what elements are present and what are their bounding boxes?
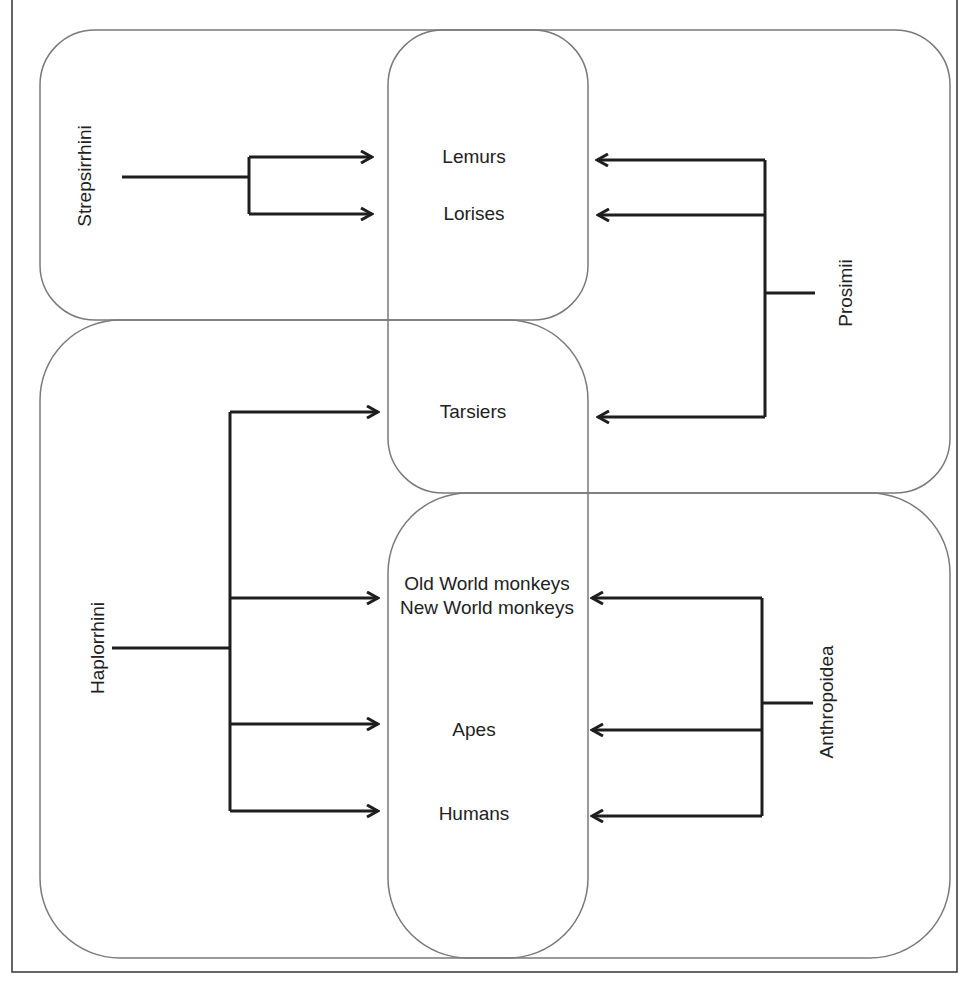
- taxon-new-world-monkeys: New World monkeys: [400, 597, 574, 618]
- prosimii-tree: [597, 160, 815, 417]
- taxon-lorises: Lorises: [443, 203, 504, 224]
- taxon-old-world-monkeys: Old World monkeys: [404, 573, 569, 594]
- label-haplorrhini: Haplorrhini: [87, 602, 108, 694]
- taxon-lemurs: Lemurs: [442, 146, 505, 167]
- label-anthropoidea: Anthropoidea: [816, 645, 837, 758]
- haplorrhini-tree: [112, 412, 378, 811]
- taxon-apes: Apes: [452, 719, 495, 740]
- label-strepsirrhini: Strepsirrhini: [74, 125, 95, 226]
- prosimii-box: [388, 30, 950, 493]
- strepsirrhini-box: [40, 30, 588, 320]
- label-prosimii: Prosimii: [835, 259, 856, 327]
- anthropoidea-tree: [592, 598, 813, 816]
- primate-classification-diagram: Lemurs Lorises Tarsiers Old World monkey…: [0, 0, 972, 1004]
- taxon-tarsiers: Tarsiers: [440, 401, 507, 422]
- taxon-humans: Humans: [439, 803, 510, 824]
- strepsirrhini-tree: [122, 157, 372, 214]
